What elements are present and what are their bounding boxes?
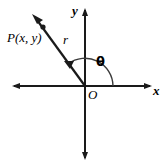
terminal-ray-arrowhead-icon [32,14,43,24]
angle-label: θ [96,55,105,68]
x-axis-label: x [153,84,160,97]
x-axis-right-arrowhead-icon [144,83,152,89]
y-axis-top-arrowhead-icon [82,8,88,16]
y-axis-bottom-arrowhead-icon [82,152,88,160]
x-axis-left-arrowhead-icon [12,83,20,89]
point-label: P(x, y) [7,31,42,44]
polar-coordinate-diagram: P(x, y) r θ O y x [0,0,167,167]
y-axis-label: y [72,4,78,17]
terminal-ray-line [37,20,85,86]
diagram-canvas [0,0,167,167]
point-dot-icon [40,24,45,29]
origin-label: O [88,88,97,101]
radius-label: r [63,33,68,46]
